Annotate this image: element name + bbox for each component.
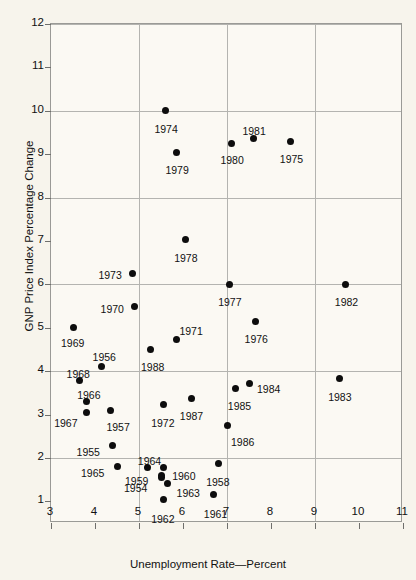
x-axis-tick-label: 3 [37, 506, 63, 518]
y-axis-tick-label: 5 [18, 321, 44, 333]
gridline-horizontal [51, 371, 401, 372]
data-point [98, 363, 105, 370]
x-axis-tick-label: 6 [169, 506, 195, 518]
data-point-label: 1960 [172, 471, 195, 482]
data-point-label: 1976 [245, 334, 268, 345]
data-point-label: 1984 [257, 384, 280, 395]
data-point [114, 463, 121, 470]
x-axis-tick [51, 523, 52, 529]
y-axis-tick [45, 198, 51, 199]
data-point [252, 318, 259, 325]
data-point [246, 380, 253, 387]
data-point-label: 1973 [98, 270, 121, 281]
x-axis-tick-label: 8 [257, 506, 283, 518]
data-point [336, 375, 343, 382]
data-point-label: 1955 [77, 447, 100, 458]
data-point-label: 1982 [335, 297, 358, 308]
data-point-label: 1971 [179, 326, 202, 337]
y-axis-tick-label: 9 [18, 147, 44, 159]
x-axis-tick [271, 523, 272, 529]
data-point-label: 1956 [93, 352, 116, 363]
data-point [210, 491, 217, 498]
y-axis-tick [45, 371, 51, 372]
data-point-label: 1965 [81, 468, 104, 479]
data-point [160, 401, 167, 408]
y-axis-tick-label: 7 [18, 234, 44, 246]
gridline-horizontal [51, 24, 401, 25]
data-point [182, 236, 189, 243]
gridline-horizontal [51, 458, 401, 459]
x-axis-tick-label: 5 [125, 506, 151, 518]
data-point-label: 1974 [154, 124, 177, 135]
x-axis-tick [315, 523, 316, 529]
x-axis-tick [183, 523, 184, 529]
data-point [232, 385, 239, 392]
data-point-label: 1975 [280, 154, 303, 165]
data-point [224, 422, 231, 429]
y-axis-tick-label: 3 [18, 408, 44, 420]
data-point [129, 270, 136, 277]
x-axis-tick-label: 10 [345, 506, 371, 518]
y-axis-tick [45, 284, 51, 285]
data-point [173, 336, 180, 343]
y-axis-tick-label: 6 [18, 277, 44, 289]
data-point [228, 140, 235, 147]
data-point-label: 1987 [180, 411, 203, 422]
data-point-label: 1977 [218, 297, 241, 308]
x-axis-tick-label: 7 [213, 506, 239, 518]
data-point [107, 407, 114, 414]
gridline-vertical [227, 24, 228, 521]
y-axis-tick-label: 8 [18, 191, 44, 203]
x-axis-tick [139, 523, 140, 529]
y-axis-tick [45, 241, 51, 242]
y-axis-tick [45, 501, 51, 502]
x-axis-tick [359, 523, 360, 529]
data-point-label: 1964 [138, 456, 161, 467]
x-axis-tick-label: 11 [389, 506, 415, 518]
y-axis-tick-label: 1 [18, 494, 44, 506]
gridline-horizontal [51, 198, 401, 199]
data-point [173, 149, 180, 156]
data-point-label: 1985 [228, 401, 251, 412]
data-point-label: 1972 [151, 418, 174, 429]
x-axis-title: Unemployment Rate—Percent [0, 558, 416, 570]
data-point-label: 1968 [67, 369, 90, 380]
y-axis-tick [45, 154, 51, 155]
data-point [147, 346, 154, 353]
chart-page: 1954195519561957195819591960196119621963… [0, 0, 416, 580]
y-axis-tick-label: 11 [18, 60, 44, 72]
data-point [188, 395, 195, 402]
data-point [83, 409, 90, 416]
y-axis-tick [45, 111, 51, 112]
y-axis-tick [45, 24, 51, 25]
x-axis-tick-label: 4 [81, 506, 107, 518]
data-point-label: 1986 [231, 437, 254, 448]
data-point-label: 1959 [125, 476, 148, 487]
data-point-label: 1966 [77, 390, 100, 401]
data-point [342, 281, 349, 288]
y-axis-tick-label: 4 [18, 364, 44, 376]
data-point-label: 1970 [101, 304, 124, 315]
data-point-label: 1967 [54, 418, 77, 429]
y-axis-tick [45, 415, 51, 416]
data-point [160, 496, 167, 503]
x-axis-tick [403, 523, 404, 529]
data-point [131, 303, 138, 310]
data-point-label: 1981 [242, 126, 265, 137]
data-point-label: 1988 [141, 362, 164, 373]
y-axis-tick [45, 458, 51, 459]
y-axis-tick-label: 10 [18, 104, 44, 116]
gridline-horizontal [51, 111, 401, 112]
data-point [215, 460, 222, 467]
data-point-label: 1958 [206, 477, 229, 488]
gridline-vertical [139, 24, 140, 521]
data-point [164, 480, 171, 487]
data-point [226, 281, 233, 288]
gridline-vertical [315, 24, 316, 521]
data-point [70, 324, 77, 331]
data-point-label: 1978 [174, 253, 197, 264]
data-point-label: 1963 [177, 488, 200, 499]
y-axis-tick-label: 12 [18, 17, 44, 29]
y-axis-tick [45, 67, 51, 68]
data-point [109, 442, 116, 449]
